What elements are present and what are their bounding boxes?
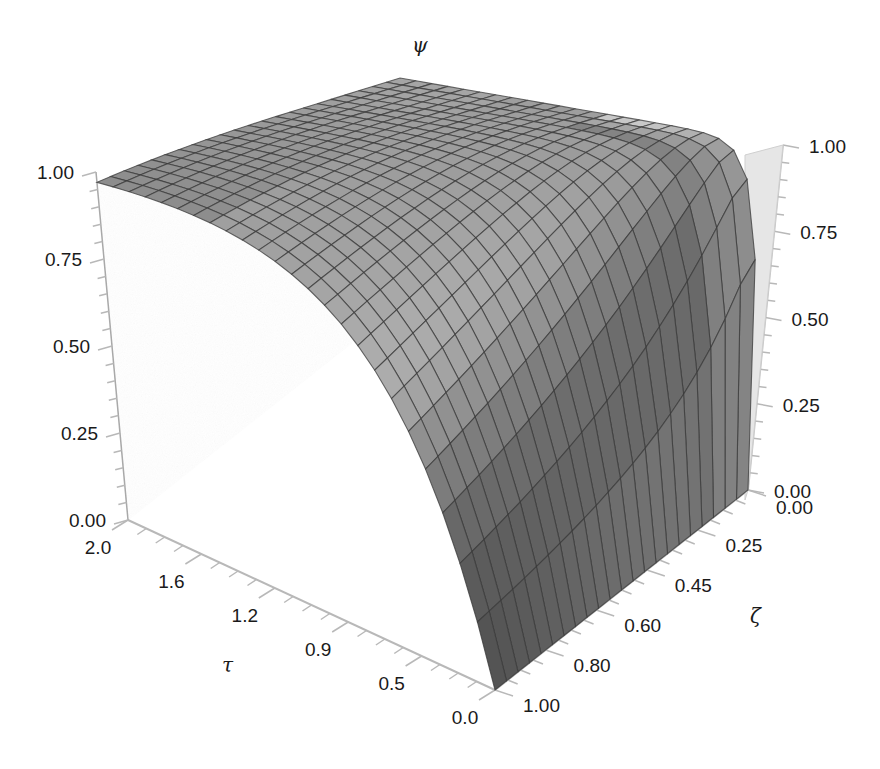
psi-axis-title: ψ bbox=[412, 33, 428, 57]
zeta-tick-label: 0.60 bbox=[624, 615, 661, 636]
psi-tick-label-left: 0.75 bbox=[45, 249, 82, 270]
tau-tick-label: 1.2 bbox=[232, 605, 258, 626]
psi-tick-label-left: 0.00 bbox=[69, 510, 106, 531]
zeta-tick-label: 0.00 bbox=[776, 497, 813, 518]
zeta-tick-label: 0.25 bbox=[725, 535, 762, 556]
psi-tick-label-right: 0.50 bbox=[792, 309, 829, 330]
psi-tick-label-left: 0.25 bbox=[61, 423, 98, 444]
psi-tick-label-left: 0.50 bbox=[53, 336, 90, 357]
surface-plot: ψ τ ζ 0.000.250.500.751.001.000.750.500.… bbox=[0, 0, 880, 769]
tau-tick-label: 0.5 bbox=[378, 673, 404, 694]
zeta-tick-label: 0.45 bbox=[675, 575, 712, 596]
psi-tick-label-right: 0.25 bbox=[783, 395, 820, 416]
psi-tick-label-right: 0.75 bbox=[800, 222, 837, 243]
tau-tick-label: 1.6 bbox=[158, 571, 184, 592]
tau-tick-label: 0.0 bbox=[452, 707, 478, 728]
tau-axis-title: τ bbox=[222, 653, 234, 677]
psi-tick-label-right: 1.00 bbox=[809, 136, 846, 157]
psi-tick-label-left: 1.00 bbox=[37, 162, 74, 183]
zeta-tick-label: 0.80 bbox=[574, 655, 611, 676]
zeta-tick-label: 1.00 bbox=[523, 695, 560, 716]
tau-tick-label: 0.9 bbox=[305, 639, 331, 660]
zeta-axis-title: ζ bbox=[750, 604, 762, 628]
tau-tick-label: 2.0 bbox=[85, 537, 111, 558]
